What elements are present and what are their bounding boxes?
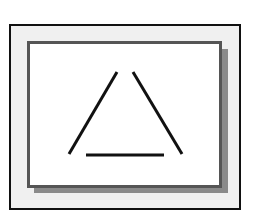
triangle-figure [0, 0, 256, 213]
triangle-right-side [133, 72, 182, 154]
triangle-left-side [69, 72, 117, 154]
